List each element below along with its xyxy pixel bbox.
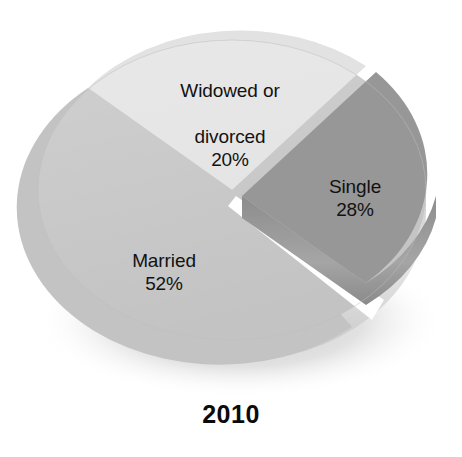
pie-chart-figure: Widowed or divorced 20% Single 28% Marri… xyxy=(0,0,462,457)
chart-year-caption: 2010 xyxy=(0,400,462,429)
pie-chart-graphic xyxy=(0,0,462,457)
